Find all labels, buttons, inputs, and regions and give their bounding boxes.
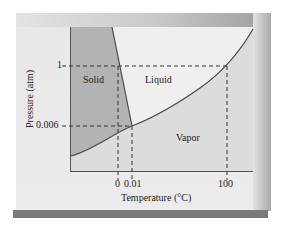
x-axis-title: Temperature (°C) xyxy=(121,192,191,203)
y-axis-title: Pressure (atm) xyxy=(24,70,35,128)
region-label-liquid: Liquid xyxy=(145,74,172,85)
y-tick-0006: 0.006 xyxy=(36,119,59,130)
x-tick-001: 0.01 xyxy=(124,178,142,189)
region-label-vapor: Vapor xyxy=(176,132,200,143)
x-tick-0: 0 xyxy=(115,178,120,189)
region-label-solid: Solid xyxy=(83,74,104,85)
y-tick-1: 1 xyxy=(57,59,62,70)
x-tick-100: 100 xyxy=(218,178,233,189)
